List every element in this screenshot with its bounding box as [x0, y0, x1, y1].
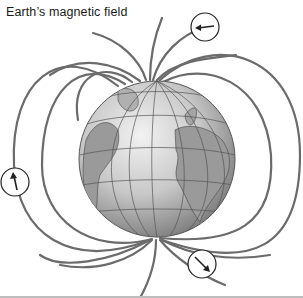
- diagram-canvas: [0, 0, 303, 298]
- earth-globe: [79, 81, 235, 237]
- direction-marker-left: [1, 168, 29, 196]
- magnetic-field-diagram: Earth’s magnetic field: [0, 0, 303, 298]
- direction-marker-bottom-right: [188, 250, 216, 278]
- direction-marker-top-right: [191, 13, 219, 41]
- figure-title: Earth’s magnetic field: [6, 5, 127, 19]
